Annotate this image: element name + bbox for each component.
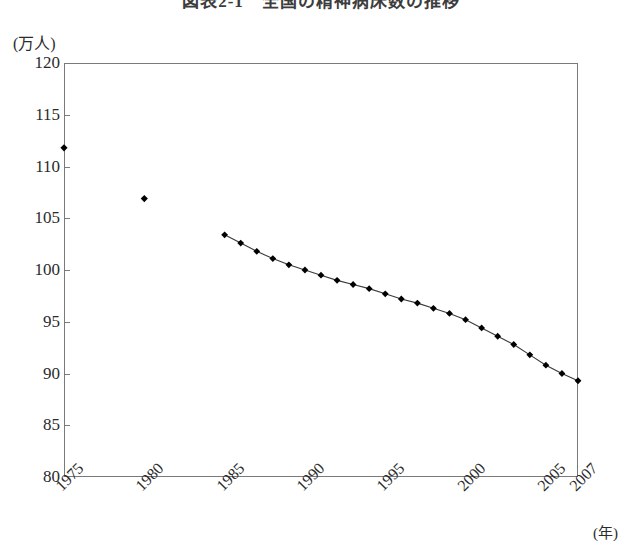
y-tick-mark (64, 322, 70, 323)
data-point-marker (494, 333, 501, 340)
y-tick-label: 110 (16, 157, 60, 177)
y-tick-label: 115 (16, 105, 60, 125)
data-point-marker (398, 296, 405, 303)
y-tick-mark (64, 270, 70, 271)
data-point-marker (221, 231, 228, 238)
y-tick-label: 85 (16, 415, 60, 435)
y-tick-label: 95 (16, 312, 60, 332)
y-tick-label: 120 (16, 53, 60, 73)
data-point-marker (350, 281, 357, 288)
data-point-marker (462, 316, 469, 323)
y-tick-label: 105 (16, 208, 60, 228)
data-point-marker (253, 248, 260, 255)
y-tick-label: 100 (16, 260, 60, 280)
data-point-marker (414, 300, 421, 307)
data-point-marker (334, 277, 341, 284)
data-point-marker (237, 240, 244, 247)
data-point-marker (269, 255, 276, 262)
series-line (225, 235, 578, 381)
data-point-marker (141, 195, 148, 202)
y-tick-mark (64, 374, 70, 375)
data-point-marker (510, 341, 517, 348)
data-point-marker (575, 377, 582, 384)
y-tick-mark (64, 115, 70, 116)
data-point-marker (302, 267, 309, 274)
y-tick-mark (64, 425, 70, 426)
chart-plot-area (64, 63, 578, 477)
page-title: 図表2-1 全国の精神病床数の推移 (0, 0, 642, 12)
data-point-marker (60, 144, 67, 151)
data-point-marker (559, 370, 566, 377)
series-isolated-points (60, 144, 148, 202)
data-point-marker (446, 310, 453, 317)
data-point-marker (366, 285, 373, 292)
data-point-marker (542, 362, 549, 369)
data-point-marker (318, 272, 325, 279)
data-point-marker (430, 305, 437, 312)
series-main-line (221, 231, 581, 384)
data-point-marker (382, 290, 389, 297)
y-axis-tick-labels: 80859095100105110115120 (8, 0, 60, 553)
x-axis-unit-label: (年) (593, 521, 618, 542)
y-tick-mark (64, 218, 70, 219)
data-point-marker (478, 325, 485, 332)
data-point-marker (285, 261, 292, 268)
y-tick-label: 90 (16, 364, 60, 384)
data-point-marker (526, 351, 533, 358)
y-tick-mark (64, 167, 70, 168)
